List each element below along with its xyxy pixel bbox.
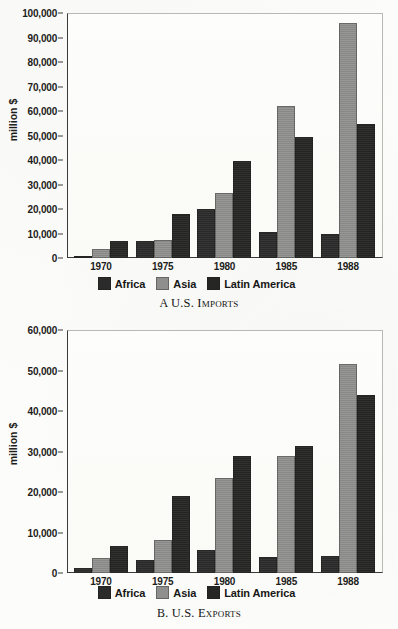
y-axis-tick-label: 90,000 [28, 32, 57, 43]
bar-asia-1970 [92, 249, 110, 258]
x-axis-imports: 19701975198019851988 [67, 261, 383, 272]
legend-item-asia: Asia [156, 277, 196, 290]
bar-latin-america-1988 [357, 124, 375, 258]
y-axis-tick-label: 40,000 [28, 155, 57, 166]
y-axis-tick-mark [58, 111, 63, 112]
bar-asia-1988 [339, 364, 357, 573]
legend-label: Asia [173, 587, 196, 599]
bar-africa-1988 [321, 556, 339, 573]
chart-panel-imports: 010,00020,00030,00040,00050,00060,00070,… [0, 0, 398, 314]
legend-swatch-icon [98, 586, 111, 599]
legend-label: Latin America [224, 587, 295, 599]
bar-group-1970 [70, 13, 132, 258]
y-axis-tick-label: 70,000 [28, 81, 57, 92]
y-axis-tick-label: 10,000 [28, 228, 57, 239]
bar-latin-america-1985 [295, 137, 313, 258]
y-axis-tick-label: 40,000 [28, 406, 57, 417]
legend-swatch-icon [98, 277, 111, 290]
bar-latin-america-1970 [110, 546, 128, 573]
plot-area-exports [67, 330, 383, 573]
y-axis-tick-mark [58, 37, 63, 38]
bar-latin-america-1975 [172, 214, 190, 258]
y-axis-tick-mark [58, 258, 63, 259]
y-axis-tick-label: 60,000 [28, 106, 57, 117]
legend-swatch-icon [156, 586, 169, 599]
x-axis-tick-label: 1988 [317, 261, 379, 272]
y-axis-tick-label: 20,000 [28, 487, 57, 498]
bar-asia-1985 [277, 456, 295, 573]
bar-latin-america-1975 [172, 496, 190, 573]
y-axis-tick-label: 30,000 [28, 446, 57, 457]
bar-group-1980 [194, 330, 256, 573]
y-axis-tick-label: 80,000 [28, 57, 57, 68]
x-axis-tick-label: 1970 [70, 261, 132, 272]
bar-africa-1970 [74, 568, 92, 573]
legend-label: Latin America [224, 278, 295, 290]
legend-exports: AfricaAsiaLatin America [0, 586, 398, 599]
y-axis-tick-mark [58, 62, 63, 63]
legend-imports: AfricaAsiaLatin America [0, 277, 398, 290]
legend-item-africa: Africa [98, 277, 146, 290]
bar-asia-1970 [92, 558, 110, 573]
bar-groups-imports [67, 13, 383, 258]
legend-label: Asia [173, 278, 196, 290]
bar-asia-1988 [339, 23, 357, 258]
y-axis-tick-label: 30,000 [28, 179, 57, 190]
y-axis-tick-mark [58, 532, 63, 533]
legend-swatch-icon [207, 277, 220, 290]
bar-latin-america-1970 [110, 241, 128, 258]
y-axis-tick-mark [58, 330, 63, 331]
bar-group-1988 [317, 330, 379, 573]
y-axis-tick-mark [58, 184, 63, 185]
y-axis-tick-label: 50,000 [28, 365, 57, 376]
x-axis-tick-label: 1985 [255, 261, 317, 272]
y-axis-label-imports: million $ [7, 99, 19, 142]
bar-africa-1975 [136, 560, 154, 573]
bar-africa-1980 [197, 550, 215, 573]
y-axis-tick-mark [58, 13, 63, 14]
legend-item-latin-america: Latin America [207, 277, 295, 290]
y-axis-tick-label: 20,000 [28, 204, 57, 215]
plot-area-imports [67, 13, 383, 258]
caption-text-imports: U.S. Imports [171, 296, 238, 310]
y-axis-tick-label: 60,000 [28, 325, 57, 336]
legend-item-asia: Asia [156, 586, 196, 599]
bar-group-1975 [132, 330, 194, 573]
y-axis-label-exports: million $ [7, 423, 19, 466]
bar-africa-1988 [321, 234, 339, 259]
figure-page: 010,00020,00030,00040,00050,00060,00070,… [0, 0, 398, 629]
chart-panel-exports: 010,00020,00030,00040,00050,00060,000 mi… [0, 314, 398, 629]
y-axis-tick-label: 100,000 [22, 8, 57, 19]
legend-label: Africa [115, 587, 146, 599]
y-axis-tick-mark [58, 411, 63, 412]
bar-group-1985 [255, 330, 317, 573]
bar-asia-1980 [215, 478, 233, 573]
bar-latin-america-1985 [295, 446, 313, 573]
bar-africa-1970 [74, 256, 92, 258]
y-axis-tick-label: 50,000 [28, 130, 57, 141]
y-axis-tick-mark [58, 86, 63, 87]
bar-africa-1985 [259, 557, 277, 573]
y-axis-tick-label: 0 [52, 568, 57, 579]
bar-group-1985 [255, 13, 317, 258]
bar-group-1988 [317, 13, 379, 258]
y-axis-tick-mark [58, 135, 63, 136]
y-axis-tick-mark [58, 451, 63, 452]
bar-group-1970 [70, 330, 132, 573]
caption-prefix-imports: A [160, 296, 168, 310]
bar-asia-1980 [215, 193, 233, 258]
y-axis-tick-mark [58, 370, 63, 371]
bar-asia-1985 [277, 106, 295, 258]
bar-asia-1975 [154, 240, 172, 258]
bar-latin-america-1988 [357, 395, 375, 573]
bar-africa-1975 [136, 241, 154, 258]
caption-prefix-exports: B. [157, 606, 168, 620]
y-axis-tick-mark [58, 233, 63, 234]
bar-africa-1985 [259, 232, 277, 258]
y-axis-tick-mark [58, 573, 63, 574]
legend-item-africa: Africa [98, 586, 146, 599]
legend-swatch-icon [156, 277, 169, 290]
y-axis-tick-label: 10,000 [28, 527, 57, 538]
bar-africa-1980 [197, 209, 215, 258]
legend-item-latin-america: Latin America [207, 586, 295, 599]
